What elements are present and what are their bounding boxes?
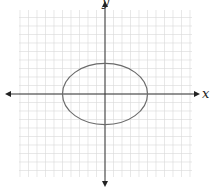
x-axis-left-arrow-icon: [5, 91, 11, 97]
coordinate-graph: x y: [0, 0, 214, 192]
x-axis-label: x: [202, 86, 210, 101]
y-axis-down-arrow-icon: [102, 181, 108, 187]
x-axis-right-arrow-icon: [194, 91, 200, 97]
y-axis-label: y: [101, 0, 110, 9]
x-axis: [5, 91, 200, 97]
